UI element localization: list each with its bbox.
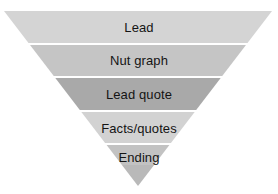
band-shape-lead-quote <box>55 78 220 110</box>
pyramid-bands <box>4 11 272 186</box>
band-shape-nut-graph <box>30 45 246 76</box>
band-shape-ending <box>107 145 170 165</box>
pyramid-shape <box>0 0 278 194</box>
band-shape-lead <box>4 11 272 43</box>
band-shape-facts-quotes <box>81 112 194 143</box>
inverted-pyramid-diagram: Lead Nut graph Lead quote Facts/quotes E… <box>0 0 278 194</box>
band-shape-tip <box>122 165 154 186</box>
